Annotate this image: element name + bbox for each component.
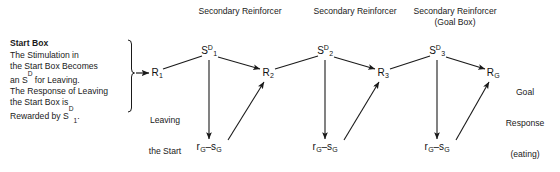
node-sd2-sub: 2: [329, 50, 333, 57]
mediator-1-right: s: [211, 141, 216, 152]
node-r2-base: R: [262, 67, 269, 78]
mediator-3-sub-right: G: [444, 146, 449, 153]
start-box-line-6-b: .: [77, 111, 79, 121]
node-r2-sub: 2: [270, 72, 274, 79]
node-r3-sub: 3: [385, 72, 389, 79]
node-mediator-2: rG–sG: [313, 141, 338, 153]
node-sd3-base: S: [429, 45, 436, 56]
arrow-sd3-to-rg: [446, 57, 485, 69]
annotation-leaving-line-2: the Start: [149, 146, 181, 156]
annotation-goal-line-1: Goal: [506, 87, 545, 97]
node-r3-base: R: [377, 67, 384, 78]
arrow-sd1-to-r2: [218, 57, 260, 69]
node-sd3-sup: D: [436, 44, 441, 51]
node-sd2-base: S: [317, 45, 324, 56]
mediator-2-right: s: [327, 141, 332, 152]
mediator-2-sub-right: G: [332, 146, 337, 153]
start-box-line-1: The Stimulation in: [10, 50, 118, 61]
node-sd1-sub: 1: [213, 50, 217, 57]
mediator-1-sub-left: G: [200, 146, 205, 153]
top-label-secondary-reinforcer-2: Secondary Reinforcer: [313, 6, 396, 16]
arrow-mediator1-to-r2: [228, 82, 264, 140]
line-r2-to-sd2: [275, 56, 318, 69]
annotation-leaving-line-1: Leaving: [149, 115, 181, 125]
node-sd2-sup: D: [324, 44, 329, 51]
node-r1-base: R: [151, 67, 158, 78]
node-r2: R2: [262, 67, 273, 79]
start-box-line-4: The Response of Leaving: [10, 86, 118, 97]
arrow-mediator3-to-rg: [456, 82, 489, 140]
start-box-line-3-sup: D: [28, 70, 33, 77]
node-mediator-1: rG–sG: [197, 141, 222, 153]
start-box-line-5: the Start Box is: [10, 97, 118, 108]
line-r1-to-sd1: [163, 56, 202, 69]
arrow-sd2-to-r3: [334, 57, 375, 69]
node-sd3: SD3: [429, 45, 445, 57]
node-sd1-base: S: [201, 45, 208, 56]
top-label-secondary-reinforcer-1: Secondary Reinforcer: [198, 6, 281, 16]
arrow-mediator2-to-r3: [344, 82, 379, 140]
mediator-3-right: s: [439, 141, 444, 152]
line-r3-to-sd3: [390, 56, 430, 69]
node-sd1: SD1: [201, 45, 217, 57]
node-rg-base: R: [487, 67, 494, 78]
node-sd3-sub: 3: [441, 50, 445, 57]
start-box-line-2: the Start Box Becomes: [10, 61, 118, 72]
annotation-goal-response: Goal Response (eating): [506, 66, 545, 172]
node-mediator-3: rG–sG: [425, 141, 450, 153]
diagram-canvas: Secondary Reinforcer Secondary Reinforce…: [0, 0, 560, 172]
mediator-1-sub-right: G: [216, 146, 221, 153]
start-box-heading: Start Box: [10, 38, 118, 49]
node-rg-sub: G: [494, 72, 499, 79]
annotation-goal-line-3: (eating): [506, 149, 545, 159]
mediator-3-left: r: [425, 141, 428, 152]
mediator-1-left: r: [197, 141, 200, 152]
mediator-2-sub-left: G: [316, 146, 321, 153]
node-r1-sub: 1: [159, 72, 163, 79]
top-label-secondary-reinforcer-3: Secondary Reinforcer: [413, 6, 496, 16]
brace-left: [128, 40, 135, 112]
annotation-leaving-start-box: Leaving the Start Box: [149, 94, 181, 172]
start-box-line-3: an SD for Leaving.: [10, 72, 118, 86]
start-box-line-6-sub: 1: [74, 117, 78, 124]
start-box-line-6-sup: D: [69, 105, 74, 112]
node-rg: RG: [487, 67, 500, 79]
mediator-2-left: r: [313, 141, 316, 152]
start-box-line-6-a: Rewarded by S: [10, 111, 69, 121]
annotation-goal-line-2: Response: [506, 118, 545, 128]
start-box-body: The Stimulation in the Start Box Becomes…: [10, 50, 118, 125]
start-box-line-6: Rewarded by SD1.: [10, 108, 118, 125]
node-sd2: SD2: [317, 45, 333, 57]
start-box-line-3-b: for Leaving.: [32, 75, 79, 85]
node-sd1-sup: D: [208, 44, 213, 51]
start-box-panel: Start Box The Stimulation in the Start B…: [10, 38, 118, 125]
top-label-goal-box: (Goal Box): [434, 17, 475, 27]
node-r3: R3: [377, 67, 388, 79]
mediator-3-sub-left: G: [428, 146, 433, 153]
start-box-line-3-a: an S: [10, 75, 28, 85]
node-r1: R1: [151, 67, 162, 79]
